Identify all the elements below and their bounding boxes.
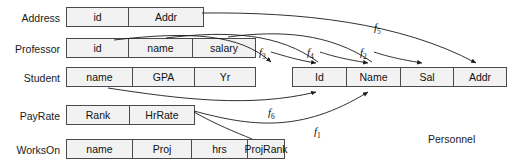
attribute-personnel-name[interactable]: Name — [347, 68, 401, 86]
row-label-workson: WorksOn — [0, 145, 60, 156]
attribute-workson-hrs[interactable]: hrs — [192, 140, 248, 158]
table-student: name GPA Yr — [66, 67, 256, 87]
attribute-professor-id[interactable]: id — [67, 39, 129, 57]
table-personnel: Id Name Sal Addr — [292, 67, 507, 87]
mapping-label-f2-sub: 2 — [363, 52, 367, 61]
attribute-address-id[interactable]: id — [67, 8, 129, 26]
target-table-caption: Personnel — [428, 134, 475, 145]
attribute-address-addr[interactable]: Addr — [129, 8, 203, 26]
mapping-label-f6: f6 — [268, 107, 275, 121]
mapping-label-f2: f2 — [360, 47, 367, 61]
row-label-address: Address — [0, 13, 60, 24]
attribute-student-name[interactable]: name — [67, 68, 133, 86]
attribute-workson-projrank[interactable]: ProjRank — [248, 140, 284, 158]
attribute-personnel-addr[interactable]: Addr — [454, 68, 506, 86]
mapping-label-f5-sub: 5 — [377, 27, 381, 36]
arrow-workson-stub — [194, 112, 252, 139]
attribute-professor-name[interactable]: name — [129, 39, 193, 57]
attribute-payrate-rank[interactable]: Rank — [67, 106, 130, 124]
row-label-professor: Professor — [0, 44, 60, 55]
mapping-label-f4: f4 — [307, 47, 314, 61]
table-address: id Addr — [66, 7, 204, 27]
attribute-personnel-sal[interactable]: Sal — [401, 68, 454, 86]
mapping-label-f1: f1 — [314, 126, 321, 140]
row-label-student: Student — [0, 73, 60, 84]
table-professor: id name salary — [66, 38, 256, 58]
arrow-f1 — [194, 92, 368, 123]
attribute-personnel-id[interactable]: Id — [293, 68, 347, 86]
attribute-student-yr[interactable]: Yr — [195, 68, 255, 86]
schema-mapping-diagram: Address Professor Student PayRate WorksO… — [0, 0, 522, 167]
mapping-label-f4-sub: 4 — [310, 52, 314, 61]
arrow-f2-head — [374, 52, 422, 63]
mapping-label-f3-sub: 3 — [262, 52, 266, 61]
mapping-label-f1-sub: 1 — [317, 131, 321, 140]
arrow-f6 — [108, 88, 316, 101]
attribute-student-gpa[interactable]: GPA — [133, 68, 195, 86]
table-workson: name Proj hrs ProjRank — [66, 139, 285, 159]
table-payrate: Rank HrRate — [66, 105, 195, 125]
mapping-label-f5: f5 — [374, 22, 381, 36]
mapping-label-f3: f3 — [259, 47, 266, 61]
attribute-professor-salary[interactable]: salary — [193, 39, 255, 57]
attribute-workson-proj[interactable]: Proj — [133, 140, 192, 158]
row-label-payrate: PayRate — [0, 111, 60, 122]
attribute-workson-name[interactable]: name — [67, 140, 133, 158]
attribute-payrate-hrrate[interactable]: HrRate — [130, 106, 194, 124]
mapping-label-f6-sub: 6 — [271, 112, 275, 121]
